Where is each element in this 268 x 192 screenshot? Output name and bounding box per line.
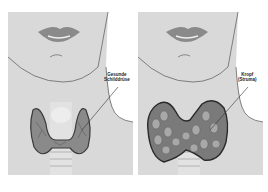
label-line2: (Struma) [238,77,257,82]
label-line2: Schilddrüse [104,77,130,82]
healthy-thyroid-panel: Gesunde Schilddrüse [8,12,133,175]
healthy-neck-illustration [8,12,133,175]
healthy-thyroid-label: Gesunde Schilddrüse [104,72,130,82]
goiter-label: Kropf (Struma) [238,72,257,82]
goiter-panel: Kropf (Struma) [138,12,263,175]
goiter-neck-illustration [138,12,263,175]
